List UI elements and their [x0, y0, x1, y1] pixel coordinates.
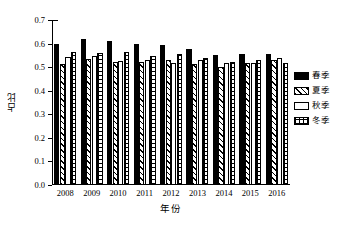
bar-group	[237, 20, 263, 185]
x-tick-label: 2009	[83, 188, 100, 198]
bar	[81, 39, 86, 185]
bar	[71, 52, 76, 185]
bar	[177, 54, 182, 185]
legend-item: 夏季	[294, 83, 342, 98]
bar	[198, 60, 203, 185]
bar	[239, 54, 244, 185]
bar	[245, 63, 250, 185]
legend-label: 春季	[312, 71, 330, 80]
bar-group	[52, 20, 78, 185]
bar-group	[78, 20, 104, 185]
bar	[86, 59, 91, 185]
bar-group	[131, 20, 157, 185]
x-tick-label: 2010	[110, 188, 127, 198]
bar	[145, 60, 150, 185]
bar	[65, 57, 70, 185]
bar	[271, 60, 276, 185]
y-tick-mark	[48, 185, 52, 186]
bar	[266, 54, 271, 185]
bar	[139, 62, 144, 186]
y-tick-label: 0.5	[34, 63, 45, 72]
legend-label: 秋季	[312, 101, 330, 110]
y-tick-label: 0.3	[34, 110, 45, 119]
bar	[150, 56, 155, 185]
x-tick-label: 2013	[189, 188, 206, 198]
x-axis-title: 年份	[52, 204, 290, 215]
x-axis-tick-labels: 200820092010201120122013201420152016	[52, 188, 290, 202]
bar	[251, 63, 256, 185]
bar	[277, 58, 282, 185]
y-tick-label: 0.7	[34, 16, 45, 25]
bar	[283, 63, 288, 185]
legend-swatch-icon	[294, 72, 309, 80]
y-tick-label: 0.6	[34, 39, 45, 48]
x-tick-label: 2014	[215, 188, 232, 198]
y-tick-label: 0.2	[34, 134, 45, 143]
legend-swatch-icon	[294, 117, 309, 125]
legend-item: 春季	[294, 68, 342, 83]
bar-group	[184, 20, 210, 185]
bar	[218, 67, 223, 185]
bar	[60, 64, 65, 185]
bar	[224, 63, 229, 185]
x-tick-label: 2008	[57, 188, 74, 198]
bar-group	[158, 20, 184, 185]
bar	[230, 62, 235, 185]
bar	[97, 53, 102, 185]
bar-group	[211, 20, 237, 185]
bar	[54, 44, 59, 185]
legend-item: 冬季	[294, 113, 342, 128]
bar	[171, 63, 176, 185]
chart-figure: 占比 0.00.10.20.30.40.50.60.7 200820092010…	[0, 0, 342, 230]
bar	[160, 45, 165, 185]
x-tick-label: 2015	[242, 188, 259, 198]
legend-swatch-icon	[294, 102, 309, 110]
bar	[192, 64, 197, 185]
bar	[256, 60, 261, 185]
bar	[213, 55, 218, 185]
legend-label: 夏季	[312, 86, 330, 95]
bar	[166, 60, 171, 185]
y-axis-tick-labels: 0.00.10.20.30.40.50.60.7	[0, 20, 52, 185]
y-tick-label: 0.1	[34, 157, 45, 166]
chart-legend: 春季夏季秋季冬季	[294, 68, 342, 128]
x-tick-label: 2016	[268, 188, 285, 198]
bar	[107, 41, 112, 185]
bar-group	[264, 20, 290, 185]
y-tick-label: 0.0	[34, 181, 45, 190]
bar-group	[105, 20, 131, 185]
x-tick-label: 2012	[163, 188, 180, 198]
legend-swatch-icon	[294, 87, 309, 95]
x-tick-label: 2011	[136, 188, 153, 198]
y-tick-label: 0.4	[34, 86, 45, 95]
bar	[186, 49, 191, 185]
legend-item: 秋季	[294, 98, 342, 113]
plot-area	[52, 20, 290, 185]
legend-label: 冬季	[312, 116, 330, 125]
bar	[113, 62, 118, 185]
bar	[134, 44, 139, 185]
bar	[118, 61, 123, 185]
bar	[203, 58, 208, 185]
bar	[124, 52, 129, 185]
bar	[92, 56, 97, 185]
